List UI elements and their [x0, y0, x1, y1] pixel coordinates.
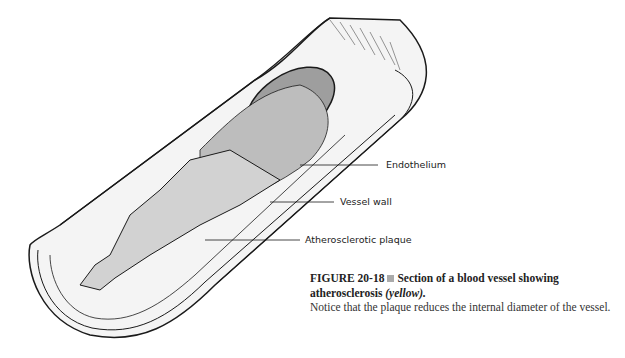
figure-number: FIGURE 20-18 [310, 272, 384, 284]
square-bullet-icon [387, 275, 394, 282]
figure-caption: FIGURE 20-18Section of a blood vessel sh… [310, 271, 615, 315]
figure-title-italic: (yellow). [385, 287, 426, 299]
label-endothelium: Endothelium [386, 159, 446, 170]
label-vessel-wall: Vessel wall [340, 196, 392, 207]
figure-description: Notice that the plaque reduces the inter… [310, 301, 610, 313]
label-atherosclerotic-plaque: Atherosclerotic plaque [305, 234, 412, 245]
